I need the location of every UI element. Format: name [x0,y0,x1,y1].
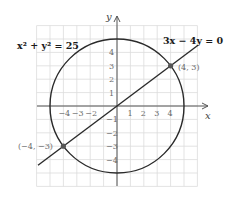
coordinate-diagram: x y −4−3−21234 4321−1−2−3−4 (4, 3) (−4, … [0,0,225,198]
x-tick-label: −2 [85,109,97,118]
x-tick-label: −4 [58,109,70,118]
y-axis-label: y [105,11,112,22]
circle-equation-label: x² + y² = 25 [17,40,79,51]
point-neg4-neg3 [61,144,66,149]
x-axis-label: x [205,110,211,121]
y-tick-label: −2 [106,129,118,138]
y-tick-label: 4 [109,48,114,57]
x-tick-label: 3 [154,109,159,118]
point-label-4-3: (4, 3) [178,63,200,72]
y-tick-label: 1 [109,89,114,98]
y-tick-label: 3 [109,62,114,71]
y-tick-label: 2 [109,75,114,84]
x-tick-label: 2 [141,109,146,118]
y-tick-label: −4 [106,156,118,165]
line-equation-label: 3x − 4y = 0 [163,35,224,46]
point-label-neg4-neg3: (−4, −3) [18,142,53,151]
y-tick-label: −1 [106,115,118,124]
point-4-3 [168,63,173,68]
x-tick-label: −3 [72,109,84,118]
x-tick-label: 4 [168,109,173,118]
x-tick-label: 1 [127,109,132,118]
y-tick-label: −3 [106,142,118,151]
